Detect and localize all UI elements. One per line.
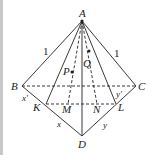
- label-L: L: [117, 101, 124, 113]
- label-M: M: [61, 103, 72, 115]
- label-B: B: [11, 80, 18, 92]
- edge-CD: [82, 86, 136, 136]
- edge-AK: [46, 21, 82, 104]
- label-P: P: [62, 65, 70, 77]
- label-D: D: [77, 138, 86, 150]
- label-edge-KD: x: [56, 119, 61, 129]
- point-P: [71, 71, 74, 74]
- pyramid-diagram: A B C D K M N L P Q 1 1 x' x y' y: [0, 0, 156, 155]
- label-Q: Q: [83, 57, 91, 69]
- label-edge-AB: 1: [43, 45, 49, 57]
- geometry-figure: A B C D K M N L P Q 1 1 x' x y' y: [0, 0, 156, 155]
- label-N: N: [92, 103, 101, 115]
- label-K: K: [32, 101, 41, 113]
- label-edge-AC: 1: [114, 47, 120, 59]
- label-A: A: [78, 7, 86, 19]
- edge-BD: [22, 86, 82, 136]
- point-Q: [88, 50, 91, 53]
- label-edge-CL: y': [115, 89, 123, 99]
- label-C: C: [138, 80, 146, 92]
- edge-AC: [82, 21, 136, 86]
- point-A: [80, 19, 83, 22]
- label-edge-LD: y: [102, 120, 107, 130]
- label-edge-BK: x': [21, 93, 29, 103]
